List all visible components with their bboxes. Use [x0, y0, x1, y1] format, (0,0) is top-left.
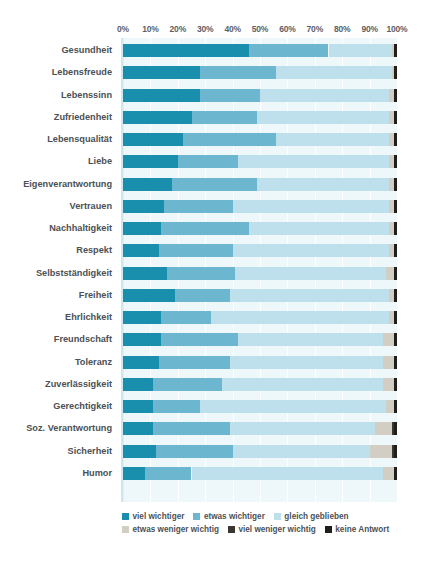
- x-axis-tick-label: 10%: [142, 24, 158, 34]
- legend-label: gleich geblieben: [284, 512, 348, 521]
- bar-segment: [233, 445, 370, 458]
- bar-segment: [123, 222, 161, 235]
- legend-item[interactable]: viel wichtiger: [122, 512, 184, 521]
- bar-segment: [123, 445, 156, 458]
- bar-segment: [394, 244, 397, 257]
- bar-segment: [383, 467, 394, 480]
- bar-row: [123, 311, 397, 324]
- category-label: Lebensfreude: [52, 66, 112, 79]
- bar-segment: [156, 445, 233, 458]
- bar-segment: [394, 66, 397, 79]
- bar-segment: [123, 44, 249, 57]
- legend-item[interactable]: gleich geblieben: [274, 512, 349, 521]
- bar-segment: [200, 66, 277, 79]
- legend-swatch-icon: [274, 513, 281, 520]
- bar-segment: [123, 378, 153, 391]
- category-label: Vertrauen: [70, 200, 112, 213]
- legend-swatch-icon: [325, 526, 332, 533]
- bar-rows: [123, 38, 397, 502]
- bar-segment: [394, 467, 397, 480]
- bar-segment: [370, 445, 392, 458]
- legend-item[interactable]: keine Antwort: [325, 525, 389, 534]
- bar-segment: [159, 356, 230, 369]
- bar-segment: [394, 267, 397, 280]
- bar-segment: [123, 133, 183, 146]
- category-label: Freiheit: [79, 289, 112, 302]
- category-label: Humor: [82, 467, 112, 480]
- legend-item[interactable]: viel weniger wichtig: [228, 525, 316, 534]
- bar-segment: [394, 378, 397, 391]
- category-label: Liebe: [88, 155, 112, 168]
- bar-segment: [200, 400, 386, 413]
- category-label: Lebensqualität: [47, 133, 112, 146]
- bar-segment: [123, 244, 159, 257]
- bar-row: [123, 422, 397, 435]
- legend-item[interactable]: etwas weniger wichtig: [122, 525, 219, 534]
- legend-label: viel weniger wichtig: [238, 525, 315, 534]
- bar-segment: [123, 467, 145, 480]
- category-label: Selbstständigkeit: [36, 267, 112, 280]
- bar-row: [123, 178, 397, 191]
- bar-row: [123, 267, 397, 280]
- x-axis-tick-label: 60%: [279, 24, 295, 34]
- x-axis-tick-label: 100%: [387, 24, 408, 34]
- bar-row: [123, 89, 397, 102]
- category-label: Gesundheit: [61, 44, 112, 57]
- category-label: Respekt: [76, 244, 112, 257]
- category-label: Sicherheit: [68, 445, 112, 458]
- bar-segment: [238, 155, 389, 168]
- bar-segment: [249, 222, 389, 235]
- category-label: Eigenverantwortung: [23, 178, 112, 191]
- bar-segment: [161, 311, 210, 324]
- category-label: Lebenssinn: [61, 89, 112, 102]
- bar-segment: [383, 333, 394, 346]
- bar-row: [123, 244, 397, 257]
- bar-row: [123, 289, 397, 302]
- legend-swatch-icon: [122, 526, 129, 533]
- legend-row: etwas weniger wichtigviel weniger wichti…: [122, 525, 422, 534]
- category-label: Soz. Verantwortung: [26, 422, 112, 435]
- category-label: Nachhaltigkeit: [49, 222, 112, 235]
- x-axis-tick-label: 90%: [361, 24, 377, 34]
- bar-segment: [145, 467, 192, 480]
- bar-segment: [123, 178, 172, 191]
- legend-label: keine Antwort: [335, 525, 389, 534]
- bar-row: [123, 445, 397, 458]
- bar-segment: [192, 467, 384, 480]
- bar-segment: [386, 400, 394, 413]
- bar-segment: [394, 222, 397, 235]
- bar-segment: [375, 422, 391, 435]
- bar-segment: [183, 133, 276, 146]
- bar-segment: [161, 222, 249, 235]
- bar-segment: [394, 155, 397, 168]
- bar-row: [123, 200, 397, 213]
- bar-segment: [394, 400, 397, 413]
- bar-segment: [233, 244, 389, 257]
- bar-row: [123, 44, 397, 57]
- bar-segment: [178, 155, 238, 168]
- category-label: Ehrlichkeit: [65, 311, 112, 324]
- bar-segment: [123, 333, 161, 346]
- bar-segment: [394, 289, 397, 302]
- bar-segment: [249, 44, 328, 57]
- gridline: [397, 38, 398, 502]
- bar-segment: [123, 311, 161, 324]
- legend-label: viel wichtiger: [133, 512, 185, 521]
- legend-swatch-icon: [193, 513, 200, 520]
- bar-segment: [276, 66, 391, 79]
- bar-segment: [123, 155, 178, 168]
- bar-segment: [394, 200, 397, 213]
- bar-segment: [394, 89, 397, 102]
- bar-segment: [153, 378, 222, 391]
- bar-segment: [123, 66, 200, 79]
- x-axis-tick-label: 50%: [252, 24, 268, 34]
- bar-segment: [257, 111, 389, 124]
- bar-segment: [394, 178, 397, 191]
- legend-item[interactable]: etwas wichtiger: [193, 512, 264, 521]
- bar-row: [123, 133, 397, 146]
- bar-segment: [153, 422, 230, 435]
- bar-segment: [394, 356, 397, 369]
- bar-segment: [257, 178, 389, 191]
- bar-segment: [153, 400, 200, 413]
- x-axis-tick-label: 80%: [334, 24, 350, 34]
